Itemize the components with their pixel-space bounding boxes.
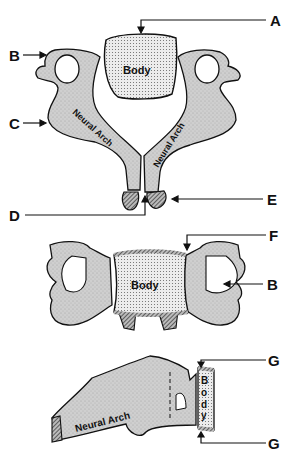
callout-label-e: E [267,192,277,207]
left-transverse-foramen [55,55,79,83]
body-letter-b: B [201,375,208,386]
vertebra-diagram: Body Neural Arch Neural Arch Body [0,0,292,458]
callout-label-c: C [9,116,20,131]
callout-label-b-mid: B [267,277,278,292]
left-spinous-tip [122,192,138,210]
body-letter-d: d [201,399,207,410]
callout-label-f: F [269,228,278,243]
body-label-mid: Body [131,279,159,291]
superior-view: Body Neural Arch Neural Arch [36,34,240,210]
callout-label-a: A [270,13,281,28]
callout-label-d: D [9,208,20,223]
body-letter-o: o [201,387,207,398]
callout-label-g-bottom: G [268,436,280,451]
lateral-arch-hatch [52,416,62,442]
lateral-neural-arch [52,356,196,440]
callout-label-g-top: G [268,353,280,368]
right-spinous-tip [147,191,166,208]
body-letter-y: y [201,410,207,421]
left-foramen-anterior [62,256,86,292]
body-label-top: Body [123,64,151,76]
lateral-view: Neural Arch B o d y [52,356,214,442]
right-transverse-foramen [195,55,219,83]
callout-label-b-top: B [9,48,20,63]
anterior-view: Body [47,242,245,330]
